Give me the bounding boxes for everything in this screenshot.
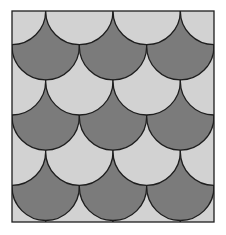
dark-scale <box>214 153 226 220</box>
dark-scale <box>214 13 226 80</box>
dark-scale <box>12 224 79 235</box>
scale-tiles <box>0 0 226 235</box>
dark-scale <box>79 224 146 235</box>
dark-scale <box>0 13 12 80</box>
dark-scale <box>214 83 226 150</box>
dark-scale <box>0 83 12 150</box>
dark-scale <box>0 224 12 235</box>
scale-pattern-figure <box>0 0 226 235</box>
dark-scale <box>214 224 226 235</box>
dark-scale <box>147 224 214 235</box>
dark-scale <box>0 153 12 220</box>
